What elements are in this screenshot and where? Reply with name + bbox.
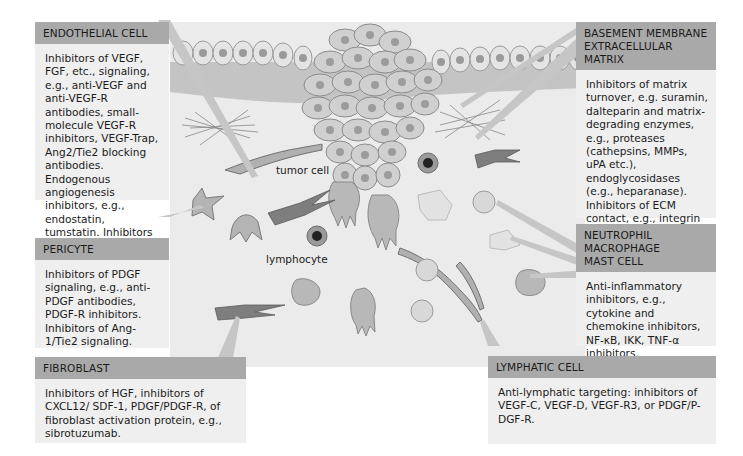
endothelial-cell-text: Inhibitors of VEGF, FGF, etc., signaling…	[35, 44, 169, 261]
basement-membrane-title-line1: BASEMENT MEMBRANE	[584, 27, 708, 40]
lymphocyte-label: lymphocyte	[266, 253, 328, 265]
basement-membrane-box: BASEMENT MEMBRANE EXTRACELLULAR MATRIX I…	[576, 22, 716, 218]
immune-cell-box: NEUTROPHIL MACROPHAGE MAST CELL Anti-inf…	[576, 224, 716, 346]
immune-title-neutrophil: NEUTROPHIL	[584, 229, 708, 242]
endothelial-cell-title: ENDOTHELIAL CELL	[35, 22, 169, 44]
lymphatic-cell-title: LYMPHATIC CELL	[488, 356, 716, 378]
basement-membrane-title-line2: EXTRACELLULAR MATRIX	[584, 40, 708, 66]
pericyte-box: PERICYTE Inhibitors of PDGF signaling, e…	[35, 238, 169, 348]
immune-title-mast-cell: MAST CELL	[584, 255, 708, 268]
fibroblast-text: Inhibitors of HGF, inhibitors of CXCL12/…	[35, 379, 246, 449]
fibroblast-box: FIBROBLAST Inhibitors of HGF, inhibitors…	[35, 357, 246, 443]
immune-title-macrophage: MACROPHAGE	[584, 242, 708, 255]
endothelial-cell-box: ENDOTHELIAL CELL Inhibitors of VEGF, FGF…	[35, 22, 169, 200]
pericyte-title: PERICYTE	[35, 238, 169, 260]
pericyte-text: Inhibitors of PDGF signaling, e.g., anti…	[35, 260, 169, 356]
immune-cell-text: Anti-inflammatory inhibitors, e.g., cyto…	[576, 272, 716, 368]
basement-membrane-title: BASEMENT MEMBRANE EXTRACELLULAR MATRIX	[576, 22, 716, 70]
lymphatic-cell-text: Anti-lymphatic targeting: inhibitors of …	[488, 378, 716, 434]
tumor-cell-label: tumor cell	[276, 164, 329, 176]
lymphatic-cell-box: LYMPHATIC CELL Anti-lymphatic targeting:…	[488, 356, 716, 444]
fibroblast-title: FIBROBLAST	[35, 357, 246, 379]
immune-cell-title: NEUTROPHIL MACROPHAGE MAST CELL	[576, 224, 716, 272]
